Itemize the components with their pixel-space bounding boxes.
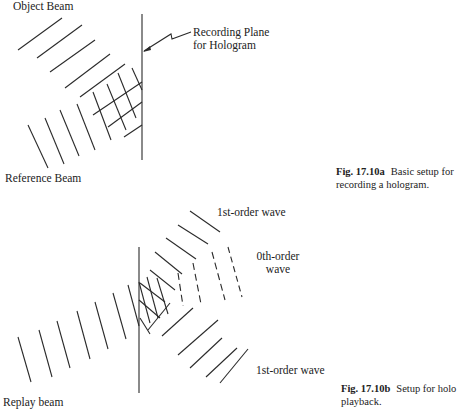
first-order-wave-bottom-label: 1st-order wave: [256, 364, 325, 377]
figure-b-number: Fig. 17.10b: [341, 383, 390, 394]
diffracted-first-order-bottom-wavefronts: [148, 303, 248, 383]
object-beam-wavefronts: [18, 18, 142, 137]
reference-beam-label: Reference Beam: [5, 172, 81, 185]
replay-beam-wavefronts: [18, 277, 168, 382]
zeroth-order-wavefronts: [178, 247, 242, 306]
first-order-wave-top-label: 1st-order wave: [217, 206, 286, 219]
zeroth-order-label-line2: wave: [248, 263, 308, 276]
hologram-diagrams: [0, 0, 463, 410]
figure-b-caption: Fig. 17.10bSetup for holo playback.: [341, 382, 463, 408]
figure-b-caption-line2: playback.: [341, 395, 463, 408]
zeroth-order-label-line1: 0th-order: [248, 250, 308, 263]
replay-beam-label: Replay beam: [3, 396, 63, 409]
recording-plane-label: Recording Plane for Hologram: [193, 26, 269, 52]
object-beam-label: Object Beam: [13, 0, 73, 13]
zeroth-order-wave-label: 0th-order wave: [248, 250, 308, 276]
recording-plane-label-line2: for Hologram: [193, 39, 269, 52]
recording-plane-label-line1: Recording Plane: [193, 26, 269, 39]
figure-a-number: Fig. 17.10a: [336, 166, 385, 177]
figure-a-caption-line1: Basic setup for: [391, 166, 454, 177]
figure-a-caption-line2: recording a hologram.: [336, 178, 463, 191]
recording-plane-pointer-arrow: [143, 32, 191, 52]
diffracted-first-order-top-wavefronts: [139, 211, 220, 334]
figure-a-caption: Fig. 17.10aBasic setup for recording a h…: [336, 165, 463, 191]
figure-b-caption-line1: Setup for holo: [396, 383, 456, 394]
reference-beam-wavefronts: [28, 68, 142, 168]
